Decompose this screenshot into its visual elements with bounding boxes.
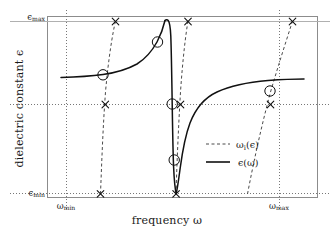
legend-label-omega-i: ωi(ϵ): [236, 139, 259, 152]
x-axis-title: frequency ω: [0, 214, 334, 227]
dielectric-function-figure: ϵmax ϵmin ωmin ωmax frequency ω dielectr…: [0, 0, 334, 235]
legend-label-epsilon: ϵ(ω): [238, 157, 258, 168]
plot-canvas: [0, 0, 334, 235]
y-axis-title: dielectric constant ϵ: [13, 24, 26, 194]
y-tick-label-max: ϵmax: [5, 12, 45, 22]
x-tick-label-max: ωmax: [256, 201, 302, 211]
x-tick-label-min: ωmin: [43, 201, 89, 211]
